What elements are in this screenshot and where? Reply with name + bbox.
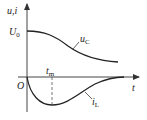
origin-label: O (17, 80, 24, 91)
uc-curve (27, 31, 118, 62)
y-axis-label: u,i (7, 5, 18, 16)
uc-label: uC (80, 33, 90, 46)
rlc-discharge-diagram: u,i U0 uC tm O t iL (0, 0, 147, 120)
il-leader (85, 92, 92, 99)
il-label: iL (92, 96, 99, 109)
tm-label: tm (46, 65, 55, 78)
il-curve (27, 77, 124, 105)
uc-leader (73, 42, 79, 49)
u0-label: U0 (9, 26, 20, 39)
x-axis-label: t (132, 82, 135, 93)
